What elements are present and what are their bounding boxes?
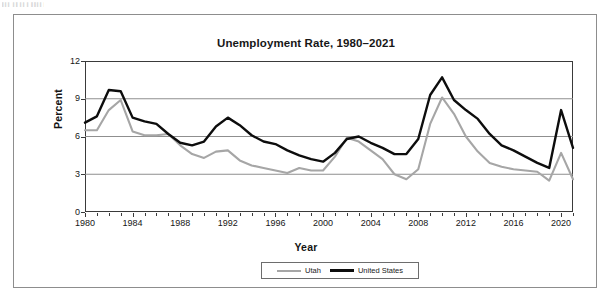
legend-swatch-utah-icon (277, 270, 301, 272)
series-group (85, 77, 573, 180)
y-axis-tick-label: 0 (56, 208, 80, 217)
legend-label-united-states: United States (358, 267, 403, 275)
x-axis-tick-mark (549, 213, 550, 216)
x-axis-tick-mark (490, 213, 491, 216)
x-axis-tick-label: 1988 (163, 218, 197, 228)
x-axis-tick-mark (109, 213, 110, 216)
x-axis-tick-mark (299, 213, 300, 216)
x-axis-title: Year (14, 241, 598, 253)
x-axis-tick-mark (156, 213, 157, 216)
x-axis-tick-mark (406, 213, 407, 216)
x-axis-tick-mark (442, 213, 443, 216)
x-axis-tick-mark (347, 213, 348, 216)
x-axis-tick-label: 1996 (258, 218, 292, 228)
series-lines (85, 61, 573, 212)
x-axis-tick-mark (121, 213, 122, 216)
x-axis-tick-mark (573, 213, 574, 216)
x-axis-tick-mark (466, 213, 467, 217)
legend-swatch-united-states-icon (330, 269, 354, 272)
x-axis-tick-mark (228, 213, 229, 217)
y-axis-tick-label: 6 (56, 132, 80, 141)
x-axis-tick-mark (561, 213, 562, 217)
chart-title: Unemployment Rate, 1980–2021 (14, 37, 598, 49)
x-axis-tick-label: 2012 (449, 218, 483, 228)
x-axis-tick-mark (252, 213, 253, 216)
plot-wrapper (85, 61, 573, 212)
x-axis-tick-mark (275, 213, 276, 217)
x-axis-tick-label: 1984 (116, 218, 150, 228)
y-axis-tick-label: 3 (56, 170, 80, 179)
series-line-united-states (85, 77, 573, 168)
x-axis-tick-mark (97, 213, 98, 216)
x-axis-tick-mark (513, 213, 514, 217)
x-axis-tick-mark (502, 213, 503, 216)
y-axis-tick-label: 12 (56, 57, 80, 66)
x-axis-tick-mark (204, 213, 205, 216)
x-axis-tick-mark (323, 213, 324, 217)
x-axis-tick-label: 2004 (354, 218, 388, 228)
x-axis-tick-mark (145, 213, 146, 216)
x-axis-tick-mark (216, 213, 217, 216)
chart-legend: Utah United States (261, 262, 419, 279)
x-axis-tick-mark (371, 213, 372, 217)
x-axis-tick-label: 2016 (496, 218, 530, 228)
y-axis-tick-label: 9 (56, 94, 80, 103)
series-line-utah (85, 97, 573, 180)
y-axis-tick-labels: 036912 (52, 61, 80, 212)
x-axis-tick-mark (85, 213, 86, 217)
x-axis-tick-mark (168, 213, 169, 216)
x-axis-tick-mark (133, 213, 134, 217)
x-axis-tick-mark (359, 213, 360, 216)
chart-outer-frame: Unemployment Rate, 1980–2021 Percent 036… (13, 14, 597, 288)
x-axis-tick-mark (537, 213, 538, 216)
legend-item-united-states: United States (330, 267, 403, 275)
x-axis-tick-mark (383, 213, 384, 216)
x-axis-tick-label: 1980 (68, 218, 102, 228)
x-axis-tick-mark (240, 213, 241, 216)
x-axis-tick-label: 2020 (544, 218, 578, 228)
legend-item-utah: Utah (277, 267, 321, 275)
x-axis-tick-mark (454, 213, 455, 216)
legend-label-utah: Utah (305, 267, 321, 275)
x-axis-tick-label: 1992 (211, 218, 245, 228)
x-axis-tick-mark (525, 213, 526, 216)
scan-artifact-text: ▌▍▍ ▍▌ ▍▍▍ ▌▌▍▍▍ (2, 2, 44, 7)
x-axis-tick-mark (311, 213, 312, 216)
x-axis-tick-mark (430, 213, 431, 216)
x-axis-tick-mark (478, 213, 479, 216)
x-axis-tick-mark (264, 213, 265, 216)
x-axis-tick-label: 2000 (306, 218, 340, 228)
x-axis-tick-mark (180, 213, 181, 217)
x-axis-tick-mark (335, 213, 336, 216)
x-axis-tick-mark (192, 213, 193, 216)
x-axis-tick-mark (394, 213, 395, 216)
chart-page: ▌▍▍ ▍▌ ▍▍▍ ▌▌▍▍▍ Unemployment Rate, 1980… (0, 0, 614, 304)
x-axis-tick-mark (287, 213, 288, 216)
x-axis-tick-label: 2008 (401, 218, 435, 228)
x-axis-ticks: 1980198419881992199620002004200820122016… (85, 213, 573, 235)
x-axis-tick-mark (418, 213, 419, 217)
